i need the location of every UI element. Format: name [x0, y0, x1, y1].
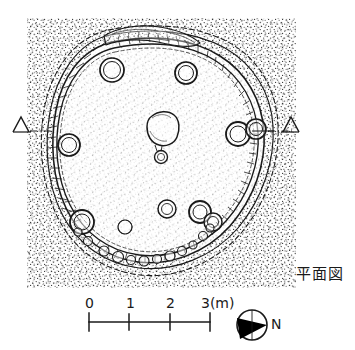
posthole-nw	[100, 58, 124, 82]
posthole-w	[58, 134, 80, 156]
scale-bar	[89, 313, 210, 331]
scale-label-3: 3(m)	[201, 295, 234, 311]
hearth-satellite-pit	[155, 151, 168, 164]
posthole-sw-small	[118, 220, 132, 234]
page-title: 平面図	[296, 262, 344, 283]
posthole-e-inner	[246, 119, 266, 139]
posthole-s-center	[158, 200, 176, 218]
compass-north-label: N	[271, 316, 281, 332]
compass-rose	[237, 310, 267, 340]
scale-label-2: 2	[166, 295, 175, 311]
site-plan-drawing	[0, 0, 355, 350]
figure-page: 平面図 0 1 2 3(m) N	[0, 0, 355, 350]
scale-label-0: 0	[85, 295, 94, 311]
posthole-ne	[175, 62, 197, 84]
scale-label-1: 1	[126, 295, 135, 311]
